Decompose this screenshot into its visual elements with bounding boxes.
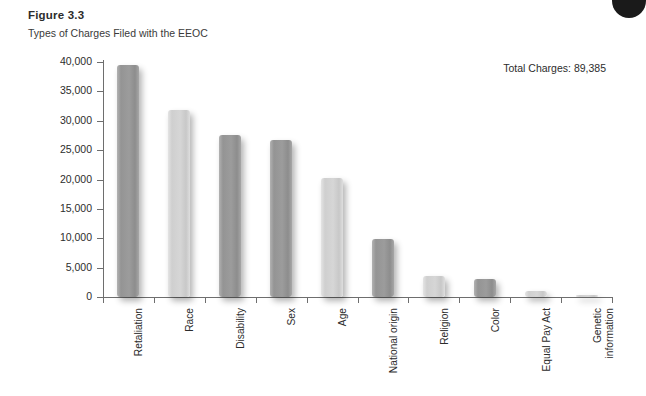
x-axis-tick (103, 297, 104, 303)
y-axis-tick (97, 121, 103, 122)
y-axis-tick-label: 40,000 (34, 56, 92, 67)
y-axis-tick-label-wrap: 40,000 (30, 56, 92, 68)
bar (270, 140, 292, 297)
x-axis-category-label: Race (184, 308, 196, 396)
x-axis-category-label: Color (490, 308, 502, 396)
x-axis-tick (256, 297, 257, 303)
y-axis-tick (97, 180, 103, 181)
x-axis-tick (408, 297, 409, 303)
y-axis-tick-label: 20,000 (34, 174, 92, 185)
x-axis-category-label: Religion (439, 308, 451, 396)
y-axis-tick (97, 268, 103, 269)
y-axis-tick (97, 62, 103, 63)
y-axis-tick-label-wrap: 0 (30, 291, 92, 303)
y-axis-line (103, 60, 104, 298)
y-axis-tick-label: 10,000 (34, 232, 92, 243)
y-axis-tick-label-wrap: 10,000 (30, 232, 92, 244)
x-axis-tick (561, 297, 562, 303)
bar (321, 178, 343, 297)
bar (117, 65, 139, 297)
bar (474, 279, 496, 297)
x-axis-category-label: Retaliation (133, 308, 145, 396)
y-axis-tick (97, 150, 103, 151)
y-axis-tick-label: 5,000 (34, 262, 92, 273)
y-axis-tick-label-wrap: 30,000 (30, 115, 92, 127)
x-axis-tick (205, 297, 206, 303)
bar (168, 110, 190, 297)
y-axis-tick-label-wrap: 15,000 (30, 203, 92, 215)
y-axis-tick (97, 209, 103, 210)
y-axis-tick-label-wrap: 25,000 (30, 144, 92, 156)
bar (423, 276, 445, 297)
y-axis-tick (97, 91, 103, 92)
x-axis-tick (358, 297, 359, 303)
y-axis-tick-label: 15,000 (34, 203, 92, 214)
x-axis-category-label: National origin (388, 308, 400, 396)
y-axis-tick-label: 35,000 (34, 85, 92, 96)
bar (372, 239, 394, 297)
y-axis-tick-label: 25,000 (34, 144, 92, 155)
y-axis-tick-label-wrap: 20,000 (30, 174, 92, 186)
bar (525, 291, 547, 297)
bar (576, 295, 598, 297)
y-axis-tick-label-wrap: 35,000 (30, 85, 92, 97)
bar (219, 135, 241, 297)
x-axis-tick (154, 297, 155, 303)
x-axis-category-label: Equal Pay Act (541, 308, 553, 396)
x-axis-tick (612, 297, 613, 303)
x-axis-category-label: Genetic information (592, 308, 615, 396)
y-axis-tick-label-wrap: 5,000 (30, 262, 92, 274)
x-axis-tick (307, 297, 308, 303)
x-axis-tick (459, 297, 460, 303)
x-axis-tick (510, 297, 511, 303)
y-axis-tick-label: 30,000 (34, 115, 92, 126)
y-axis-tick (97, 238, 103, 239)
x-axis-category-label: Disability (235, 308, 247, 396)
y-axis-tick-label: 0 (34, 291, 92, 302)
x-axis-category-label: Age (337, 308, 349, 396)
x-axis-category-label: Sex (286, 308, 298, 396)
